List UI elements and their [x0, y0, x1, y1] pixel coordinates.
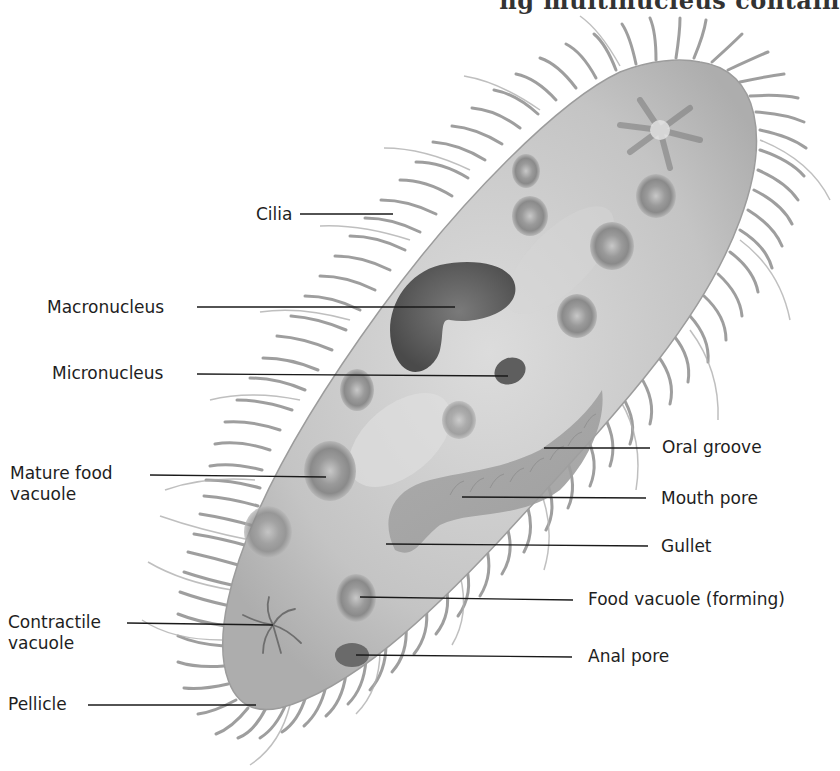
label-mouth-pore: Mouth pore [661, 488, 758, 509]
label-cilia: Cilia [256, 204, 292, 225]
label-gullet: Gullet [661, 536, 712, 557]
label-contractile-vacuole-line2: vacuole [8, 633, 101, 654]
paramecium-illustration [0, 0, 840, 771]
paramecium-body [223, 60, 756, 709]
label-contractile-vacuole-line1: Contractile [8, 612, 101, 633]
label-mature-food-vacuole-line1: Mature food [10, 463, 113, 484]
label-pellicle: Pellicle [8, 694, 67, 715]
label-mature-food-vacuole-line2: vacuole [10, 484, 113, 505]
label-contractile-vacuole: Contractile vacuole [8, 612, 101, 654]
label-macronucleus: Macronucleus [47, 297, 164, 318]
label-mature-food-vacuole: Mature food vacuole [10, 463, 113, 505]
label-oral-groove: Oral groove [662, 437, 762, 458]
label-micronucleus: Micronucleus [52, 363, 163, 384]
label-food-vacuole-forming: Food vacuole (forming) [588, 589, 785, 610]
label-anal-pore: Anal pore [588, 646, 669, 667]
forming-food-vacuole [336, 574, 376, 622]
